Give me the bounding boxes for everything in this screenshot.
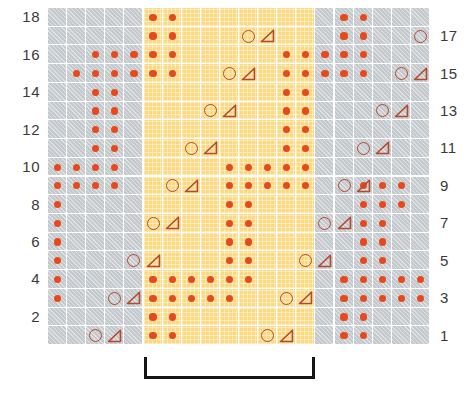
chart-cell [296, 326, 315, 345]
bobble-dot-icon [67, 64, 86, 83]
bobble-dot-icon [182, 289, 201, 308]
chart-cell [105, 308, 124, 327]
chart-cell [144, 120, 163, 139]
chart-cell [315, 289, 334, 308]
chart-cell [67, 308, 86, 327]
bobble-dot-icon [124, 45, 143, 64]
chart-cell [144, 45, 163, 64]
bobble-dot-icon [86, 139, 105, 158]
chart-cell [48, 251, 67, 270]
chart-row [48, 139, 430, 158]
bobble-dot-icon [86, 83, 105, 102]
chart-cell [163, 64, 182, 83]
yarn-over-circle-icon [277, 289, 296, 308]
chart-cell [86, 289, 105, 308]
bobble-dot-icon [220, 195, 239, 214]
chart-cell [48, 102, 67, 121]
chart-cell [411, 120, 430, 139]
bobble-dot-icon [105, 177, 124, 196]
bobble-dot-icon [220, 270, 239, 289]
bobble-dot-icon [239, 195, 258, 214]
chart-cell [201, 45, 220, 64]
chart-cell [315, 45, 334, 64]
chart-cell [392, 233, 411, 252]
chart-cell [220, 195, 239, 214]
chart-cell [220, 83, 239, 102]
chart-cell [67, 83, 86, 102]
bobble-dot-icon [105, 120, 124, 139]
chart-cell [392, 64, 411, 83]
chart-cell [67, 195, 86, 214]
chart-cell [48, 214, 67, 233]
yarn-over-circle-icon [86, 326, 105, 345]
chart-cell [373, 120, 392, 139]
row-number-label: 2 [8, 309, 40, 324]
chart-row [48, 195, 430, 214]
bobble-dot-icon [144, 308, 163, 327]
row-number-label: 7 [440, 215, 470, 230]
chart-cell [277, 214, 296, 233]
chart-cell [67, 102, 86, 121]
chart-cell [354, 270, 373, 289]
chart-cell [354, 251, 373, 270]
chart-cell [163, 177, 182, 196]
chart-cell [335, 45, 354, 64]
chart-cell [296, 102, 315, 121]
chart-cell [296, 45, 315, 64]
chart-cell [411, 214, 430, 233]
chart-cell [373, 270, 392, 289]
yarn-over-circle-icon [239, 27, 258, 46]
chart-cell [258, 233, 277, 252]
chart-cell [411, 289, 430, 308]
decrease-triangle-icon [144, 251, 163, 270]
chart-cell [105, 83, 124, 102]
decrease-triangle-icon [277, 326, 296, 345]
row-number-label: 15 [440, 66, 470, 81]
chart-cell [220, 233, 239, 252]
chart-cell [144, 308, 163, 327]
chart-row [48, 270, 430, 289]
row-number-label: 14 [8, 84, 40, 99]
chart-cell [124, 158, 143, 177]
chart-cell [296, 27, 315, 46]
bobble-dot-icon [354, 8, 373, 27]
chart-cell [315, 308, 334, 327]
chart-cell [201, 289, 220, 308]
chart-cell [258, 214, 277, 233]
chart-cell [392, 83, 411, 102]
row-number-label: 9 [440, 178, 470, 193]
chart-cell [258, 158, 277, 177]
yarn-over-circle-icon [124, 251, 143, 270]
chart-cell [105, 195, 124, 214]
bobble-dot-icon [335, 27, 354, 46]
decrease-triangle-icon [182, 177, 201, 196]
chart-cell [144, 251, 163, 270]
bobble-dot-icon [239, 270, 258, 289]
chart-cell [277, 233, 296, 252]
chart-row [48, 64, 430, 83]
yarn-over-circle-icon [354, 139, 373, 158]
bobble-dot-icon [296, 83, 315, 102]
chart-cell [163, 251, 182, 270]
chart-row [48, 83, 430, 102]
chart-cell [277, 326, 296, 345]
chart-cell [201, 270, 220, 289]
chart-cell [201, 158, 220, 177]
chart-cell [86, 83, 105, 102]
chart-cell [239, 102, 258, 121]
chart-cell [86, 120, 105, 139]
row-number-label: 11 [440, 140, 470, 155]
chart-cell [335, 289, 354, 308]
chart-cell [354, 64, 373, 83]
bobble-dot-icon [277, 177, 296, 196]
chart-cell [201, 64, 220, 83]
bobble-dot-icon [220, 158, 239, 177]
chart-cell [411, 326, 430, 345]
chart-cell [277, 8, 296, 27]
chart-cell [144, 195, 163, 214]
chart-cell [411, 27, 430, 46]
chart-cell [182, 177, 201, 196]
bobble-dot-icon [373, 270, 392, 289]
chart-cell [67, 27, 86, 46]
chart-cell [315, 64, 334, 83]
